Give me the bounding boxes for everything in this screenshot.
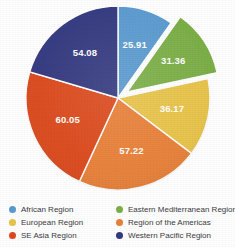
legend-item-label: SE Asia Region	[21, 231, 77, 240]
legend-item-label: Eastern Mediterranean Region	[128, 205, 235, 214]
legend-item-label: Western Pacific Region	[128, 231, 211, 240]
pie-slice-value-label: 54.08	[73, 47, 97, 58]
legend-color-swatch-icon	[9, 206, 16, 213]
legend-color-swatch-icon	[116, 219, 123, 226]
pie-slices-group	[26, 6, 217, 190]
legend-item-label: Region of the Americas	[128, 218, 211, 227]
legend-item[interactable]: SE Asia Region	[9, 229, 116, 242]
pie-slice-value-label: 57.22	[119, 145, 143, 156]
legend-item[interactable]: European Region	[9, 216, 116, 229]
legend-color-swatch-icon	[116, 206, 123, 213]
legend-item[interactable]: Region of the Americas	[116, 216, 231, 229]
legend-color-swatch-icon	[9, 219, 16, 226]
pie-slice-value-label: 60.05	[56, 114, 81, 125]
pie-chart-figure: 25.9131.3636.1757.2260.0554.08 African R…	[0, 0, 235, 247]
chart-legend: African RegionEastern Mediterranean Regi…	[9, 203, 231, 243]
pie-chart-plot-area: 25.9131.3636.1757.2260.0554.08	[0, 0, 235, 198]
legend-item[interactable]: Eastern Mediterranean Region	[116, 203, 231, 216]
legend-item[interactable]: African Region	[9, 203, 116, 216]
pie-chart-svg: 25.9131.3636.1757.2260.0554.08	[0, 0, 235, 198]
legend-color-swatch-icon	[116, 232, 123, 239]
legend-item[interactable]: Western Pacific Region	[116, 229, 231, 242]
pie-slice-value-label: 31.36	[161, 55, 185, 66]
legend-color-swatch-icon	[9, 232, 16, 239]
legend-item-label: European Region	[21, 218, 83, 227]
pie-slice-value-label: 36.17	[160, 103, 184, 114]
pie-slice-value-label: 25.91	[123, 39, 148, 50]
legend-item-label: African Region	[21, 205, 73, 214]
